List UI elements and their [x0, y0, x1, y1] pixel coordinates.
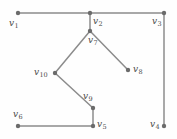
- vertex-label-v5: v5: [97, 120, 106, 129]
- vertex-label-v2: v2: [93, 17, 102, 26]
- vertex-label-v8: v8: [133, 65, 142, 74]
- vertex-label-v7: v7: [88, 36, 97, 45]
- vertex-label-v3: v3: [152, 17, 161, 26]
- vertex-label-v9: v9: [83, 92, 92, 101]
- graph-vertex-v9: [91, 106, 95, 110]
- graph-vertex-v8: [126, 68, 130, 72]
- vertex-label-subscript: 6: [18, 113, 22, 121]
- graph-vertex-v7: [88, 29, 92, 33]
- vertex-label-subscript: 10: [39, 71, 47, 79]
- graph-vertex-v5: [91, 124, 95, 128]
- vertex-label-v4: v4: [150, 120, 159, 129]
- vertex-label-subscript: 1: [14, 22, 18, 30]
- graph-vertex-v10: [53, 71, 57, 75]
- graph-vertex-v4: [162, 124, 166, 128]
- vertex-label-v10: v10: [34, 68, 47, 77]
- vertex-label-subscript: 5: [102, 123, 106, 131]
- vertex-label-subscript: 7: [93, 39, 97, 47]
- vertex-label-subscript: 8: [138, 68, 142, 76]
- vertex-label-v1: v1: [9, 19, 18, 28]
- vertex-label-v6: v6: [13, 110, 22, 119]
- graph-diagram: v1v2v3v4v5v6v7v8v9v10: [0, 0, 177, 139]
- graph-vertex-v6: [16, 124, 20, 128]
- graph-vertex-v1: [16, 11, 20, 15]
- vertex-label-subscript: 4: [155, 123, 159, 131]
- graph-vertex-v2: [88, 11, 92, 15]
- graph-edge-v7-v10: [55, 31, 90, 73]
- vertex-label-subscript: 9: [88, 95, 92, 103]
- graph-vertex-v3: [162, 11, 166, 15]
- vertex-label-subscript: 2: [98, 20, 102, 28]
- vertex-label-subscript: 3: [157, 20, 161, 28]
